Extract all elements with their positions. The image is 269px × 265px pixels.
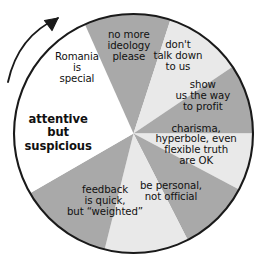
communication-wheel-figure: attentive but suspiciousRomania is speci… [0,0,269,265]
wheel-slices [14,14,253,253]
wheel-graphic [0,0,269,265]
